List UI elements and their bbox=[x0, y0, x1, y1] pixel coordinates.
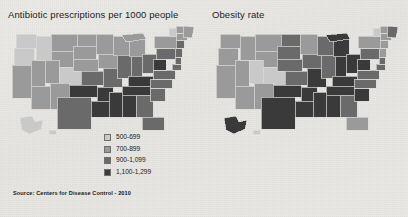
state-ID bbox=[240, 36, 255, 60]
state-IA bbox=[302, 54, 321, 68]
legend-item: 900-1,099 bbox=[104, 155, 151, 167]
state-ND bbox=[77, 34, 96, 46]
state-TX bbox=[57, 97, 91, 129]
legend-label: 500-699 bbox=[116, 134, 140, 141]
state-AZ bbox=[235, 86, 254, 109]
state-FL bbox=[142, 117, 164, 130]
state-LA bbox=[295, 101, 313, 117]
state-OK bbox=[69, 85, 97, 97]
state-DE bbox=[175, 57, 181, 64]
state-ME bbox=[183, 26, 194, 38]
state-WV bbox=[357, 59, 370, 70]
state-SC bbox=[150, 88, 165, 101]
state-AZ bbox=[31, 86, 50, 109]
state-CT bbox=[176, 40, 184, 48]
state-SD bbox=[277, 46, 300, 59]
state-OK bbox=[273, 85, 301, 97]
state-MS bbox=[109, 92, 122, 117]
state-TX bbox=[261, 97, 295, 129]
state-UT bbox=[45, 60, 59, 83]
state-CA bbox=[12, 65, 31, 98]
state-MN bbox=[96, 34, 113, 54]
state-NE bbox=[73, 59, 98, 71]
state-IN bbox=[335, 56, 346, 76]
state-AL bbox=[122, 95, 136, 117]
state-CA bbox=[216, 65, 235, 98]
state-NY bbox=[358, 36, 380, 48]
state-SC bbox=[354, 88, 369, 101]
legend-item: 500-699 bbox=[104, 132, 151, 144]
state-KY bbox=[332, 76, 357, 86]
state-UT bbox=[249, 60, 263, 83]
state-CT bbox=[380, 40, 388, 48]
state-NJ bbox=[379, 48, 386, 57]
state-KY bbox=[128, 76, 153, 86]
state-DE bbox=[379, 57, 385, 64]
legend-item: 1,100-1,299 bbox=[104, 167, 151, 179]
state-MD bbox=[172, 64, 181, 70]
state-PA bbox=[360, 48, 379, 59]
state-TN bbox=[326, 86, 354, 95]
state-WA bbox=[16, 34, 36, 48]
legend-swatch-icon bbox=[104, 169, 111, 176]
legend-label: 700-899 bbox=[116, 146, 140, 153]
state-NJ bbox=[175, 48, 182, 57]
map-panel-antibiotics: Antibiotic prescriptions per 1000 people bbox=[0, 0, 204, 217]
state-KS bbox=[285, 71, 307, 85]
state-NH bbox=[176, 26, 183, 33]
state-VA bbox=[357, 70, 379, 79]
state-IA bbox=[98, 54, 117, 68]
state-TN bbox=[122, 86, 150, 95]
legend-swatch-icon bbox=[104, 134, 111, 141]
map-panel-obesity: Obesity rate bbox=[204, 0, 408, 217]
state-PA bbox=[156, 48, 175, 59]
legend-label: 1,100-1,299 bbox=[116, 169, 151, 176]
state-NV bbox=[31, 60, 45, 86]
state-AK bbox=[20, 116, 43, 134]
state-NE bbox=[277, 59, 302, 71]
legend-swatch-icon bbox=[104, 157, 111, 164]
choropleth-map-antibiotics bbox=[2, 26, 202, 144]
state-NH bbox=[380, 26, 387, 33]
state-ID bbox=[36, 36, 51, 60]
state-IL bbox=[117, 55, 131, 78]
state-MS bbox=[313, 92, 326, 117]
state-MD bbox=[376, 64, 385, 70]
state-KS bbox=[81, 71, 103, 85]
state-AL bbox=[326, 95, 340, 117]
state-NY bbox=[154, 36, 176, 48]
state-HI bbox=[253, 130, 260, 134]
state-ME bbox=[387, 26, 398, 38]
state-WV bbox=[153, 59, 166, 70]
panel-title-antibiotics: Antibiotic prescriptions per 1000 people bbox=[0, 9, 204, 20]
state-VT bbox=[373, 28, 380, 36]
state-VA bbox=[153, 70, 175, 79]
state-FL bbox=[346, 117, 368, 130]
state-ND bbox=[281, 34, 300, 46]
state-SD bbox=[73, 46, 96, 59]
legend-item: 700-899 bbox=[104, 144, 151, 156]
state-AK bbox=[224, 116, 247, 134]
state-NV bbox=[235, 60, 249, 86]
state-NC bbox=[354, 79, 376, 88]
state-NC bbox=[150, 79, 172, 88]
state-HI bbox=[49, 130, 56, 134]
panel-title-obesity: Obesity rate bbox=[204, 9, 408, 20]
source-note: Source: Centers for Disease Control - 20… bbox=[13, 190, 131, 196]
state-IN bbox=[131, 56, 142, 76]
state-MN bbox=[300, 34, 317, 54]
state-VT bbox=[169, 28, 176, 36]
choropleth-map-obesity bbox=[206, 26, 406, 144]
legend-label: 900-1,099 bbox=[116, 157, 146, 164]
state-LA bbox=[91, 101, 109, 117]
state-IL bbox=[321, 55, 335, 78]
state-WA bbox=[220, 34, 240, 48]
legend-antibiotics: 500-699 700-899 900-1,099 1,100-1,299 bbox=[104, 132, 151, 178]
legend-swatch-icon bbox=[104, 146, 111, 153]
